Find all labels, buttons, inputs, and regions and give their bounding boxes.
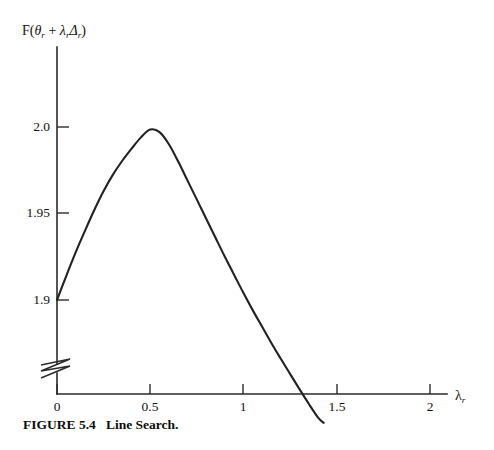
figure-container: F(θr + λrΔr) λr 2.0 1.95 1.9 0 0.5 1 1.5…: [0, 0, 494, 450]
x-axis-label: λr: [455, 389, 465, 403]
y-axis-label-plus: +: [45, 23, 60, 38]
line-search-plot: [0, 0, 494, 450]
objective-function-curve: [57, 129, 324, 423]
y-axis-label-close-paren: ): [81, 23, 86, 38]
y-tick-label-1.95: 1.95: [5, 206, 50, 220]
x-tick-label-1: 1: [223, 400, 263, 414]
x-tick-label-0: 0: [37, 400, 77, 414]
y-axis-label-f: F(: [22, 23, 34, 38]
y-tick-label-1.9: 1.9: [5, 293, 50, 307]
axis-break-zigzag-icon: [41, 359, 70, 378]
x-axis-label-lambda-sub: r: [462, 395, 466, 405]
y-axis-label-delta: Δ: [70, 23, 78, 38]
y-axis-label-lambda-sub: r: [66, 30, 70, 40]
y-axis-label-theta-sub: r: [41, 30, 45, 40]
y-axis-label-lambda: λ: [60, 23, 66, 38]
x-tick-label-0.5: 0.5: [130, 400, 170, 414]
y-tick-label-2.0: 2.0: [5, 120, 50, 134]
y-axis-label: F(θr + λrΔr): [22, 24, 86, 38]
x-axis-label-lambda: λ: [455, 388, 462, 403]
x-tick-label-1.5: 1.5: [317, 400, 357, 414]
y-axis-label-delta-sub: r: [78, 30, 82, 40]
figure-caption: FIGURE 5.4 Line Search.: [23, 417, 178, 433]
x-tick-label-2: 2: [410, 400, 450, 414]
